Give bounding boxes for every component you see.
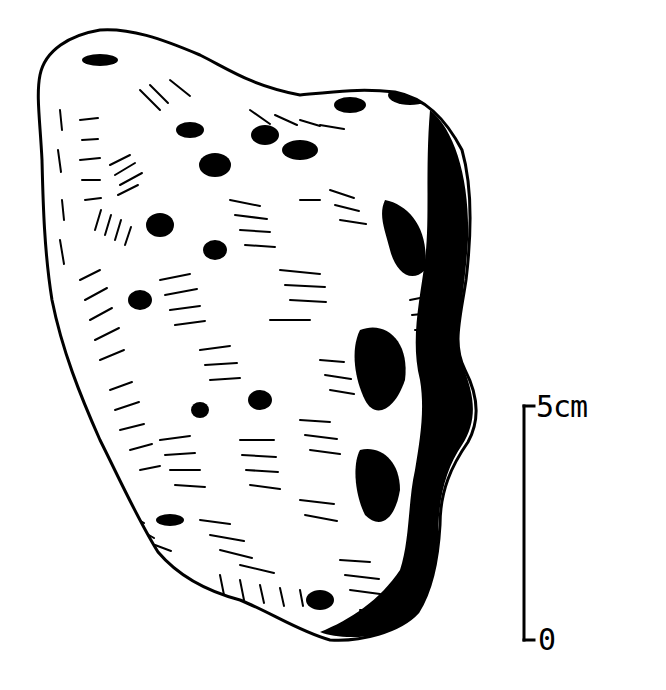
- scale-label-bottom: 0: [538, 625, 555, 655]
- scale-bar: [524, 406, 534, 640]
- artifact-illustration: [0, 0, 666, 690]
- scale-label-top: 5cm: [536, 392, 587, 422]
